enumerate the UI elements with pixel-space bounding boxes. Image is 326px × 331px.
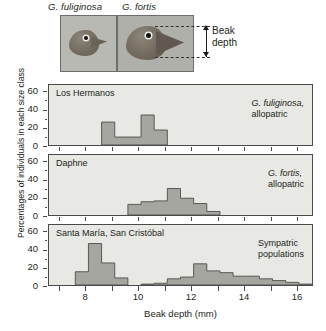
y-tick-mark [43,161,47,162]
panel-x-tick-mark [191,217,192,221]
panel-x-tick-mark [297,287,298,291]
y-tick-mark [43,231,47,232]
x-axis: Beak depth (mm) 810121416 [48,286,313,320]
panel-x-tick-mark [297,147,298,151]
histogram-series [102,115,168,145]
y-tick-mark [43,180,47,181]
photo-fuliginosa [60,15,117,72]
y-tick-label: 20 [20,191,38,202]
y-tick-label: 60 [20,155,38,166]
panel-x-tick-mark [112,147,113,151]
x-tick-label: 16 [292,291,303,302]
y-tick-label: 40 [20,173,38,184]
arrow-up-icon [203,25,209,30]
beak-depth-bottom-guideline [155,57,210,58]
panel-x-tick-mark [85,147,86,151]
beak-depth-line-2: depth [212,37,237,49]
y-tick-mark [43,110,47,111]
panel-x-tick-mark [165,287,166,291]
panel-x-tick-mark [271,287,272,291]
histogram-series [75,244,128,285]
panel-x-tick-mark [244,217,245,221]
panel-title-3: Santa María, San Cristóbal [56,228,164,238]
y-tick-label: 20 [20,261,38,272]
panel-x-tick-mark [191,147,192,151]
panel-x-tick-mark [271,147,272,151]
y-minor-tick-mark [45,277,48,278]
panel-x-tick-mark [85,287,86,291]
panel-x-tick-mark [112,217,113,221]
y-tick-mark [43,91,47,92]
y-tick-label: 60 [20,225,38,236]
finch-beak-shape [91,37,107,48]
panel-daphne: Daphne G. fortis, allopatric [48,154,313,216]
y-tick-mark [43,268,47,269]
panel-x-tick-mark [244,287,245,291]
panel-x-tick-mark [59,147,60,151]
y-tick-label: 0 [20,280,38,291]
y-tick-mark [43,198,47,199]
panel-x-tick-mark [165,217,166,221]
panel-note-2: G. fortis, allopatric [268,168,304,190]
y-tick-mark [43,146,47,147]
panel-x-tick-mark [244,147,245,151]
y-minor-tick-mark [45,207,48,208]
panel-title-1: Los Hermanos [56,88,115,98]
y-minor-tick-mark [45,170,48,171]
panel-title-2: Daphne [56,158,88,168]
y-tick-mark [43,216,47,217]
finch-eye-shape [84,36,88,40]
y-tick-label: 0 [20,140,38,151]
y-tick-label: 60 [20,85,38,96]
panel-x-tick-mark [191,287,192,291]
panel-x-tick-mark [297,217,298,221]
photo-fortis [117,15,194,72]
y-tick-label: 40 [20,243,38,254]
panel-note-3: Sympatric populations [258,238,304,260]
y-tick-label: 20 [20,121,38,132]
panel-x-tick-mark [218,147,219,151]
y-minor-tick-mark [45,259,48,260]
y-minor-tick-mark [45,137,48,138]
panel-x-tick-mark [138,147,139,151]
histogram-series [128,189,220,215]
panel-x-tick-mark [271,217,272,221]
histogram-figure: Percentages of individuals in each size … [0,82,326,331]
x-tick-label: 8 [82,291,87,302]
y-tick-mark [43,128,47,129]
beak-depth-annotation: Beak depth [212,25,237,48]
y-minor-tick-mark [45,119,48,120]
species-label-fortis: G. fortis [122,1,156,12]
x-tick-label: 10 [133,291,144,302]
y-minor-tick-mark [45,100,48,101]
y-tick-label: 40 [20,103,38,114]
panel-x-tick-mark [85,217,86,221]
x-axis-label: Beak depth (mm) [48,308,313,319]
finch-beak-shape [156,31,184,55]
panel-x-tick-mark [112,287,113,291]
specimen-photo-block: G. fuliginosa G. fortis Beak depth [0,0,326,80]
arrow-down-icon [203,52,209,57]
x-tick-label: 12 [186,291,197,302]
panel-x-tick-mark [218,217,219,221]
panel-x-tick-mark [165,147,166,151]
panel-santa-maria-san-cristobal: Santa María, San Cristóbal Sympatric pop… [48,224,313,286]
panel-x-tick-mark [138,287,139,291]
y-minor-tick-mark [45,189,48,190]
panel-x-tick-mark [138,217,139,221]
histogram-series [141,264,312,285]
panel-los-hermanos: Los Hermanos G. fuliginosa, allopatric [48,84,313,146]
species-label-fuliginosa: G. fuliginosa [48,1,102,12]
x-tick-label: 14 [239,291,250,302]
panel-x-tick-mark [59,217,60,221]
y-minor-tick-mark [45,240,48,241]
y-tick-mark [43,286,47,287]
y-tick-label: 0 [20,210,38,221]
finch-eye-shape [146,33,151,38]
beak-depth-line-1: Beak [212,25,237,37]
panel-x-tick-mark [59,287,60,291]
panel-x-tick-mark [218,287,219,291]
panel-note-1: G. fuliginosa, allopatric [251,98,304,120]
y-tick-mark [43,250,47,251]
